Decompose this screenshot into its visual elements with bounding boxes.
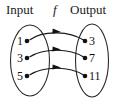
node-value-label: 3 [89, 34, 95, 48]
output-node-group: 3711 [83, 34, 101, 83]
node-dot [25, 74, 30, 79]
node-value-label: 1 [17, 34, 23, 48]
node-dot [25, 39, 30, 44]
mapping-arrowhead [52, 64, 61, 70]
mapping-arrowhead [52, 29, 61, 35]
node-dot [25, 56, 30, 61]
node-value-label: 11 [89, 69, 101, 83]
input-node-group: 135 [17, 34, 29, 83]
node-dot [83, 39, 88, 44]
function-mapping-diagram: Input f Output 135 3711 [0, 0, 115, 105]
mapping-arrow [30, 33, 84, 40]
diagram-canvas: 135 3711 [0, 0, 115, 105]
mapping-arrowhead [52, 46, 61, 52]
node-dot [83, 74, 88, 79]
node-value-label: 5 [17, 69, 23, 83]
node-dot [83, 56, 88, 61]
node-value-label: 3 [17, 51, 23, 65]
node-value-label: 7 [89, 51, 95, 65]
